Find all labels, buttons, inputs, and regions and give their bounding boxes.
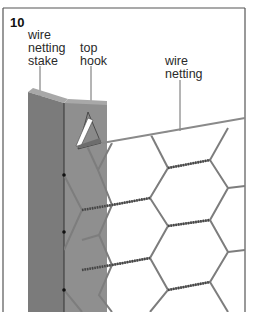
label-line: netting (165, 68, 203, 81)
label-wire-netting-stake: wire netting stake (28, 29, 66, 68)
label-top-hook: top hook (80, 42, 107, 68)
label-line: hook (80, 55, 107, 68)
top-wire (102, 118, 245, 143)
label-wire-netting: wire netting (165, 55, 203, 81)
wire-netting-stake (28, 88, 107, 312)
label-line: stake (28, 55, 66, 68)
figure-number: 10 (10, 15, 24, 30)
